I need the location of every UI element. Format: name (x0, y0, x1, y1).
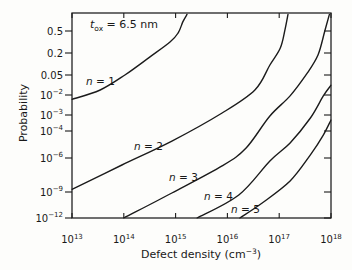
y-axis-title: Probability (17, 83, 30, 142)
curve-label-2: n = 2 (134, 140, 163, 152)
plot-frame (72, 13, 331, 218)
x-tick-label: 1014 (113, 233, 135, 245)
curve-label-3: n = 3 (169, 171, 198, 183)
curve-label-1: n = 1 (86, 75, 115, 87)
curve-n-2 (72, 14, 288, 189)
y-tick-label: 10−4 (40, 124, 64, 136)
x-axis-ticks (72, 13, 331, 218)
y-tick-label: 0.5 (47, 26, 63, 37)
x-tick-label: 1017 (268, 233, 290, 245)
y-tick-label: 10−2 (40, 88, 63, 100)
chart-figure: 1013101410151016101710180.50.20.0510−210… (0, 0, 352, 270)
y-tick-label: 10−12 (35, 211, 63, 223)
curves (72, 14, 331, 218)
x-tick-label: 1015 (165, 233, 187, 245)
oxide-thickness-annotation: tox = 6.5 nm (90, 18, 158, 33)
curve-n-3 (124, 14, 330, 218)
x-tick-label: 1013 (61, 233, 83, 245)
x-axis-tick-labels: 101310141015101610171018 (61, 233, 342, 245)
y-tick-label: 10−3 (40, 108, 63, 120)
curve-label-5: n = 5 (231, 203, 260, 215)
y-tick-label: 0.2 (47, 48, 63, 59)
curve-label-4: n = 4 (204, 190, 233, 202)
y-tick-label: 0.05 (41, 70, 63, 81)
x-tick-label: 1016 (217, 233, 239, 245)
x-axis-title: Defect density (cm−3) (141, 247, 261, 261)
curve-labels: n = 1n = 2n = 3n = 4n = 5 (86, 75, 260, 215)
x-tick-label: 1018 (320, 233, 342, 245)
y-axis-ticks (65, 31, 331, 218)
defect-probability-chart: 1013101410151016101710180.50.20.0510−210… (0, 0, 352, 270)
y-axis-tick-labels: 0.50.20.0510−210−310−410−610−910−12 (35, 26, 63, 224)
y-tick-label: 10−6 (40, 151, 64, 163)
y-tick-label: 10−9 (40, 185, 63, 197)
